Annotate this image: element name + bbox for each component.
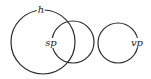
circle-h [11, 10, 75, 74]
label-sp: sp [44, 38, 58, 48]
label-h: h [37, 5, 45, 15]
venn-diagram: h sp vp [0, 0, 151, 79]
label-vp: vp [130, 38, 144, 48]
circles-canvas [0, 0, 151, 79]
circle-sp [52, 21, 94, 63]
